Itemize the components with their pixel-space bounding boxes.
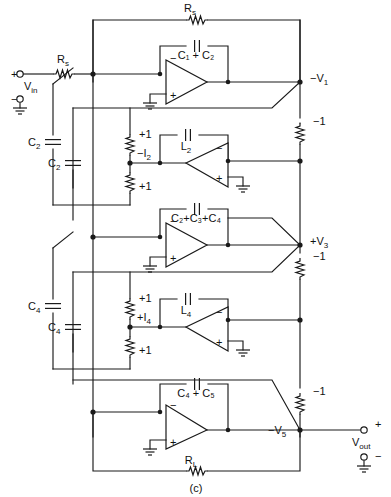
resistor-rs-input-symbol <box>53 70 75 78</box>
c4-capacitor-network <box>45 232 130 384</box>
opamp-5-plus-sign: + <box>170 436 176 448</box>
label-output-minus: − <box>375 450 381 462</box>
label-input-plus: + <box>11 68 17 80</box>
opamp-5-minus-sign: − <box>170 399 176 411</box>
capacitor-c2-upper-symbol <box>45 140 61 145</box>
ground-opamp2-icon <box>236 186 250 192</box>
label-rl: RL <box>185 454 198 469</box>
label-gain-plus1-d: +1 <box>139 344 152 356</box>
ground-opamp5-icon <box>143 449 157 455</box>
capacitor-c4-upper-symbol <box>45 304 61 309</box>
label-input-minus: − <box>11 93 17 105</box>
resistor-plus1-d-symbol <box>126 336 134 358</box>
stage-2-amplifier <box>127 129 300 192</box>
label-c1-plus-c2: C₁ + C₂ <box>178 49 214 61</box>
label-l4: L4 <box>181 304 192 319</box>
resistor-plus1-b-symbol <box>126 172 134 194</box>
ground-input-icon <box>13 108 27 114</box>
ground-opamp4-icon <box>236 350 250 356</box>
label-gain-minus1-a: −1 <box>313 115 326 127</box>
figure-caption: (c) <box>190 482 203 494</box>
junction-dot <box>158 325 163 330</box>
resistor-minus1-a-symbol <box>296 123 304 145</box>
label-l2: L2 <box>181 140 192 155</box>
label-rs-top: Rs <box>184 2 196 17</box>
resistor-minus1-c-symbol <box>296 393 304 415</box>
label-c2-c3-c4: C₂+C₃+C₄ <box>171 212 221 224</box>
junction-dot <box>226 428 231 433</box>
junction-dot <box>226 159 231 164</box>
label-output-plus: + <box>375 418 381 430</box>
junction-dot <box>226 318 231 323</box>
opamp-4-minus-sign: − <box>216 306 222 318</box>
output-minus-terminal[interactable] <box>361 454 367 460</box>
junction-dot <box>158 235 163 240</box>
opamp-2-minus-sign: − <box>216 142 222 154</box>
opamp-1-plus-sign: + <box>170 89 176 101</box>
ground-output-icon <box>357 466 371 472</box>
junction-dot <box>158 410 163 415</box>
resistor-plus1-c-symbol <box>126 298 134 320</box>
junction-dot <box>226 243 231 248</box>
junction-dot <box>158 161 163 166</box>
label-c2-lower: C2 <box>48 157 61 172</box>
label-gain-plus1-c: +1 <box>139 292 152 304</box>
feedback-diagonal-v3-lower <box>73 245 300 352</box>
label-gain-plus1-a: +1 <box>139 128 152 140</box>
input-minus-terminal[interactable] <box>17 96 23 102</box>
junction-dot <box>226 80 231 85</box>
junction-dot <box>127 324 132 329</box>
label-c2-upper: C2 <box>28 136 41 151</box>
label-node-v5: −V5 <box>268 424 287 439</box>
input-plus-terminal[interactable] <box>17 71 23 77</box>
opamp-2-plus-sign: + <box>216 172 222 184</box>
label-gain-plus1-b: +1 <box>139 180 152 192</box>
stage-2-unity-network <box>126 108 134 205</box>
junction-dot <box>127 160 132 165</box>
junction-dot <box>90 234 95 239</box>
opamp-3-plus-sign: + <box>170 252 176 264</box>
stage-4-amplifier <box>127 293 300 356</box>
resistor-rs-top-symbol <box>186 16 208 24</box>
label-c4-lower: C4 <box>48 321 61 336</box>
stage-4-unity-network <box>126 272 134 369</box>
output-plus-terminal[interactable] <box>361 427 367 433</box>
label-c4-upper: C4 <box>28 300 41 315</box>
label-node-v1: −V1 <box>310 72 329 87</box>
ground-opamp3-icon <box>143 266 157 272</box>
opamp-1-minus-sign: − <box>170 52 176 64</box>
c2-capacitor-network <box>45 68 130 220</box>
opamp-4-plus-sign: + <box>216 336 222 348</box>
resistor-plus1-a-symbol <box>126 134 134 156</box>
label-node-i2: −I2 <box>137 147 151 162</box>
schematic-figure: Rs + − Vin Rs − + C₁ + C₂ <box>0 0 391 497</box>
feedback-diagonal-v3-upper <box>228 218 300 245</box>
junction-dot <box>90 71 95 76</box>
label-gain-minus1-b: −1 <box>313 250 326 262</box>
label-c4-plus-c5: C₄ + C₅ <box>177 387 214 399</box>
label-rs-input: Rs <box>57 53 69 68</box>
label-vout: Vout <box>352 436 371 451</box>
label-node-v3: +V3 <box>310 235 329 250</box>
feedback-diagonal-v1 <box>73 82 300 188</box>
label-gain-minus1-c: −1 <box>313 385 326 397</box>
label-vin: Vin <box>24 80 38 95</box>
junction-dot <box>158 72 163 77</box>
resistor-minus1-b-symbol <box>296 258 304 280</box>
label-node-i4: +I4 <box>137 311 151 326</box>
